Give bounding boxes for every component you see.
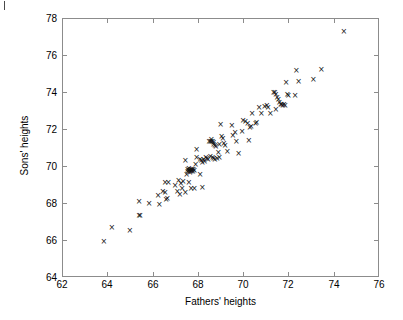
- x-axis-tick-label: 70: [228, 279, 258, 290]
- x-axis-tick-top: [107, 18, 108, 23]
- y-axis-tick-label: 64: [31, 272, 57, 283]
- x-axis-tick-top: [288, 18, 289, 23]
- y-axis-tick-right: [374, 240, 379, 241]
- y-axis-tick-right: [374, 166, 379, 167]
- x-axis-tick-top: [334, 18, 335, 23]
- y-axis-tick-label: 70: [31, 161, 57, 172]
- x-axis-tick: [153, 272, 154, 277]
- x-axis-tick: [243, 272, 244, 277]
- x-axis-tick: [288, 272, 289, 277]
- y-axis-tick: [62, 55, 67, 56]
- x-axis-tick: [198, 272, 199, 277]
- y-axis-tick-label: 72: [31, 124, 57, 135]
- y-axis-tick: [62, 203, 67, 204]
- y-axis-tick: [62, 166, 67, 167]
- x-axis-tick: [107, 272, 108, 277]
- x-axis-tick-top: [243, 18, 244, 23]
- x-axis-tick: [334, 272, 335, 277]
- x-axis-tick-label: 68: [183, 279, 213, 290]
- y-axis-tick-label: 68: [31, 198, 57, 209]
- y-axis-tick-right: [374, 92, 379, 93]
- y-axis-tick: [62, 92, 67, 93]
- y-axis-tick: [62, 129, 67, 130]
- y-axis-tick-right: [374, 129, 379, 130]
- y-axis-tick-label: 66: [31, 235, 57, 246]
- x-axis-tick-label: 72: [273, 279, 303, 290]
- x-axis-tick-label: 64: [92, 279, 122, 290]
- y-axis-tick: [62, 240, 67, 241]
- x-axis-tick-top: [198, 18, 199, 23]
- x-axis-label: Fathers' heights: [62, 296, 379, 307]
- x-axis-tick-label: 66: [138, 279, 168, 290]
- y-axis-tick-label: 76: [31, 50, 57, 61]
- scatter-plot-figure: 62646668707274766466687072747678 Fathers…: [0, 0, 403, 320]
- y-axis-tick-label: 78: [31, 13, 57, 24]
- x-axis-tick-top: [153, 18, 154, 23]
- x-axis-tick-label: 76: [364, 279, 394, 290]
- x-axis-tick-label: 74: [319, 279, 349, 290]
- y-axis-label: Sons' heights: [19, 86, 30, 206]
- y-axis-tick-right: [374, 55, 379, 56]
- corner-artifact-mark: [4, 1, 5, 10]
- plot-frame: [62, 18, 379, 277]
- y-axis-tick-label: 74: [31, 87, 57, 98]
- y-axis-tick-right: [374, 203, 379, 204]
